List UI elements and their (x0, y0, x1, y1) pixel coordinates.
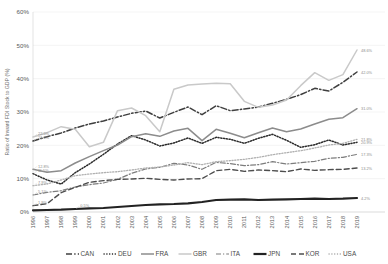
x-tick-label: 2014 (284, 216, 290, 228)
x-tick-label: 2017 (326, 216, 332, 228)
legend-label-usa: USA (343, 250, 357, 257)
y-axis-ticks: 0%10%20%30%40%50%60% (17, 8, 30, 215)
series-line-can (33, 72, 357, 141)
y-tick-label: 30% (17, 108, 30, 115)
gridlines (33, 12, 385, 212)
x-tick-label: 1996 (30, 216, 36, 228)
data-point-label: 17.3% (361, 152, 373, 157)
legend-label-ita: ITA (231, 250, 241, 257)
data-point-label: 0.5% (80, 203, 89, 208)
x-tick-label: 2003 (129, 216, 135, 228)
x-tick-label: 2013 (269, 216, 275, 228)
legend-label-fra: FRA (156, 250, 170, 257)
x-tick-label: 2016 (312, 216, 318, 228)
x-tick-label: 2019 (354, 216, 360, 228)
data-point-label: 48.6% (361, 48, 373, 53)
x-tick-label: 2010 (227, 216, 233, 228)
x-tick-label: 1998 (58, 216, 64, 228)
data-point-label: 21.3% (38, 135, 50, 140)
x-tick-label: 2005 (157, 216, 163, 228)
x-tick-label: 2002 (115, 216, 121, 228)
legend-label-kor: KOR (306, 250, 320, 257)
legend-label-can: CAN (81, 250, 95, 257)
label-leader-line (34, 171, 37, 174)
data-point-label: 20.9% (361, 140, 373, 145)
data-labels: 22.5%21.3%11.5%12.8%7.9%5.1%1.9%0.5%48.6… (34, 48, 373, 209)
series-line-kor (33, 168, 357, 206)
x-tick-label: 2004 (143, 216, 149, 228)
chart-legend: CANDEUFRAGBRITAJPNKORUSA (66, 250, 357, 257)
x-tick-label: 2000 (86, 216, 92, 228)
x-tick-label: 2009 (213, 216, 219, 228)
data-point-label: 4.2% (361, 196, 370, 201)
data-point-label: 7.9% (38, 180, 47, 185)
legend-label-gbr: GBR (193, 250, 207, 257)
series-line-gbr (33, 50, 357, 147)
x-tick-label: 2001 (100, 216, 106, 228)
y-tick-label: 0% (20, 208, 29, 215)
y-axis-title: Ratio of Inward FDI Stock to GDP (%) (4, 68, 10, 155)
y-tick-label: 40% (17, 75, 30, 82)
y-tick-label: 10% (17, 175, 30, 182)
x-tick-label: 2018 (340, 216, 346, 228)
data-series (33, 50, 357, 210)
x-tick-label: 1997 (44, 216, 50, 228)
chart-canvas: 0%10%20%30%40%50%60% 1996199719981999200… (0, 0, 388, 264)
x-tick-label: 2015 (298, 216, 304, 228)
x-tick-label: 1999 (72, 216, 78, 228)
data-point-label: 13.2% (361, 166, 373, 171)
y-axis-title-text: Ratio of Inward FDI Stock to GDP (%) (4, 68, 10, 155)
x-tick-label: 2012 (255, 216, 261, 228)
y-tick-label: 50% (17, 42, 30, 49)
data-point-label: 11.5% (38, 168, 49, 173)
series-line-deu (33, 134, 357, 184)
x-tick-label: 2006 (171, 216, 177, 228)
legend-label-jpn: JPN (268, 250, 280, 257)
data-point-label: 31.0% (361, 106, 373, 111)
data-point-label: 12.8% (38, 164, 50, 169)
label-leader-line (34, 166, 37, 169)
fdi-stock-line-chart: 0%10%20%30%40%50%60% 1996199719981999200… (0, 0, 388, 264)
data-point-label: 1.9% (38, 200, 47, 205)
x-axis-ticks: 1996199719981999200020012002200320042005… (30, 216, 360, 228)
data-point-label: 42.0% (361, 70, 373, 75)
x-tick-label: 2011 (241, 216, 247, 228)
x-tick-label: 2007 (185, 216, 191, 228)
y-tick-label: 60% (17, 8, 30, 15)
x-tick-label: 2008 (199, 216, 205, 228)
y-tick-label: 20% (17, 142, 30, 149)
legend-label-deu: DEU (118, 250, 132, 257)
data-point-label: 5.1% (38, 189, 47, 194)
